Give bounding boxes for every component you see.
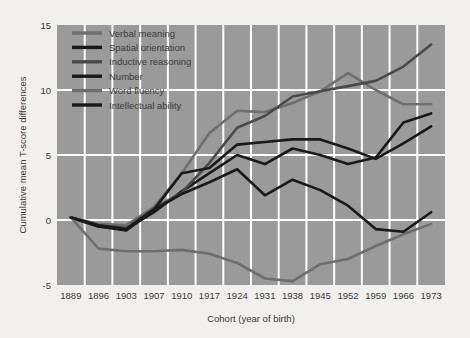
legend-label: Verbal meaning: [109, 28, 175, 39]
legend-label: Intellectual ability: [109, 100, 182, 111]
y-tick-label: 5: [46, 150, 51, 161]
x-tick-label: 1966: [393, 290, 414, 301]
chart-figure: -5051015 1889189619031907191019171924193…: [0, 0, 470, 338]
y-tick-label: 15: [40, 20, 51, 31]
legend-label: Number: [109, 71, 143, 82]
line-chart: -5051015 1889189619031907191019171924193…: [0, 0, 470, 338]
x-tick-label: 1952: [337, 290, 358, 301]
x-tick-label: 1945: [310, 290, 331, 301]
x-tick-label: 1910: [171, 290, 192, 301]
x-tick-label: 1938: [282, 290, 303, 301]
y-tick-label: -5: [43, 280, 51, 291]
legend-label: Inductive reasoning: [109, 56, 191, 67]
legend-label: Word fluency: [109, 85, 165, 96]
x-axis-title: Cohort (year of birth): [207, 313, 295, 324]
x-tick-label: 1973: [421, 290, 442, 301]
legend-label: Spatial orientation: [109, 42, 185, 53]
x-tick-label: 1889: [60, 290, 81, 301]
x-tick-label: 1959: [365, 290, 386, 301]
x-tick-label: 1903: [116, 290, 137, 301]
y-tick-label: 0: [46, 215, 51, 226]
y-tick-label: 10: [40, 85, 51, 96]
x-tick-label: 1931: [254, 290, 275, 301]
x-tick-label: 1896: [88, 290, 109, 301]
x-tick-label: 1917: [199, 290, 220, 301]
y-axis-title: Cumulative mean T-score differences: [17, 76, 28, 233]
x-tick-label: 1907: [143, 290, 164, 301]
x-tick-label: 1924: [227, 290, 248, 301]
